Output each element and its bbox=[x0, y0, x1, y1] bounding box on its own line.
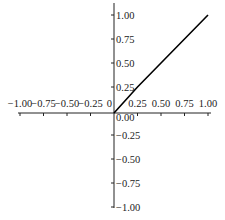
y-tick-label: 0.75 bbox=[116, 34, 134, 45]
y-tick-label: 0.25 bbox=[116, 82, 134, 93]
y-tick-label: 1.00 bbox=[116, 10, 134, 21]
x-tick-label: −0.75 bbox=[31, 98, 55, 109]
x-tick-label: −0.50 bbox=[55, 98, 79, 109]
x-tick-label: 0.25 bbox=[128, 98, 146, 109]
x-tick-label: 0.50 bbox=[152, 98, 170, 109]
y-tick-label: −0.75 bbox=[116, 178, 140, 189]
x-tick-label: 0 bbox=[107, 98, 112, 109]
x-tick-label: −1.00 bbox=[8, 98, 32, 109]
y-tick-label: 0.00 bbox=[116, 112, 134, 123]
y-tick-label: 0.50 bbox=[116, 58, 134, 69]
y-tick-label: −0.25 bbox=[116, 130, 140, 141]
x-tick-label: 1.00 bbox=[199, 98, 217, 109]
x-tick-label: 0.75 bbox=[175, 98, 193, 109]
y-tick-label: −1.00 bbox=[116, 202, 140, 213]
chart-plot: −1.00−0.75−0.50−0.2500.250.500.751.001.0… bbox=[0, 0, 225, 220]
x-tick-label: −0.25 bbox=[78, 98, 102, 109]
y-tick-label: −0.50 bbox=[116, 154, 140, 165]
